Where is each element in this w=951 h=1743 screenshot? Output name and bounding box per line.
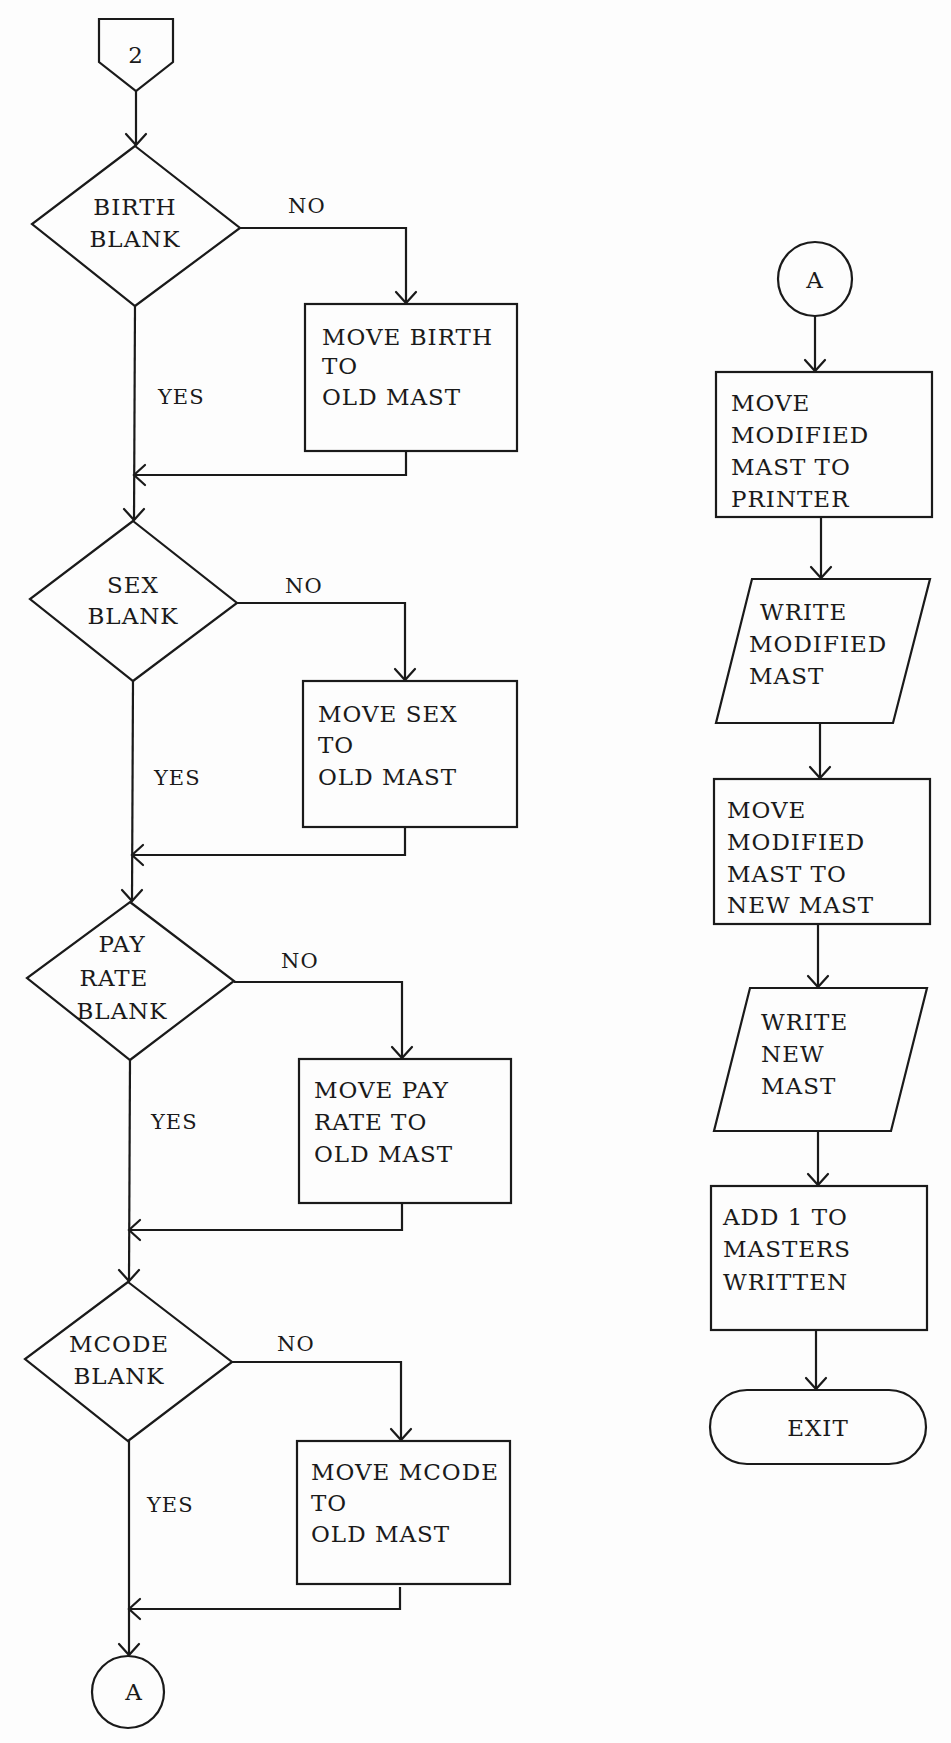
svg-text:BIRTH: BIRTH [93, 194, 176, 220]
branch-label-yes: YES [157, 385, 205, 409]
svg-text:TO: TO [322, 353, 358, 379]
process-add-1-to-masters-written: ADD 1 TO MASTERS WRITTEN [711, 1186, 927, 1330]
process-move-payrate: MOVE PAY RATE TO OLD MAST [299, 1059, 511, 1203]
svg-text:BLANK: BLANK [73, 1363, 164, 1389]
onpage-connector-a-out: A [92, 1656, 164, 1728]
svg-text:BLANK: BLANK [87, 603, 178, 629]
svg-text:MAST TO: MAST TO [731, 454, 851, 480]
flowchart-canvas: 2 BIRTH BLANK NO MOVE BIRTH TO OLD MAST … [0, 0, 951, 1743]
svg-text:ADD 1 TO: ADD 1 TO [722, 1204, 848, 1230]
svg-text:RATE: RATE [80, 965, 149, 991]
onpage-connector-a-in: A [778, 242, 852, 316]
svg-text:MAST: MAST [761, 1073, 836, 1099]
process-move-mcode: MOVE MCODE TO OLD MAST [297, 1441, 510, 1584]
svg-text:WRITE: WRITE [760, 599, 847, 625]
svg-text:MASTERS: MASTERS [723, 1236, 851, 1262]
svg-text:RATE TO: RATE TO [314, 1109, 427, 1135]
svg-text:MCODE: MCODE [69, 1331, 169, 1357]
svg-text:MAST TO: MAST TO [727, 861, 847, 887]
branch-label-yes: YES [146, 1493, 194, 1517]
decision-mcode-blank: MCODE BLANK [25, 1282, 232, 1441]
svg-text:OLD MAST: OLD MAST [318, 764, 457, 790]
process-move-sex: MOVE SEX TO OLD MAST [303, 681, 517, 827]
svg-text:MOVE MCODE: MOVE MCODE [311, 1459, 499, 1485]
svg-text:TO: TO [311, 1490, 347, 1516]
io-write-new-mast: WRITE NEW MAST [714, 988, 927, 1131]
svg-text:WRITE: WRITE [761, 1009, 848, 1035]
svg-text:A: A [124, 1679, 143, 1705]
svg-text:NEW: NEW [761, 1041, 825, 1067]
branch-label-no: NO [288, 194, 326, 218]
svg-text:MOVE BIRTH: MOVE BIRTH [322, 324, 493, 350]
terminal-exit: EXIT [710, 1390, 926, 1464]
process-move-birth: MOVE BIRTH TO OLD MAST [305, 304, 517, 451]
svg-text:PAY: PAY [98, 931, 145, 957]
svg-text:BLANK: BLANK [89, 226, 180, 252]
svg-text:OLD MAST: OLD MAST [311, 1521, 450, 1547]
svg-text:MOVE PAY: MOVE PAY [314, 1077, 449, 1103]
svg-text:WRITTEN: WRITTEN [723, 1269, 848, 1295]
svg-text:EXIT: EXIT [787, 1415, 849, 1441]
svg-text:A: A [805, 267, 824, 293]
svg-text:MODIFIED: MODIFIED [731, 422, 869, 448]
branch-label-no: NO [281, 949, 319, 973]
svg-text:SEX: SEX [107, 572, 159, 598]
svg-text:OLD MAST: OLD MAST [314, 1141, 453, 1167]
connector-label: 2 [128, 42, 144, 68]
svg-text:MOVE: MOVE [731, 390, 810, 416]
svg-text:BLANK: BLANK [76, 998, 167, 1024]
svg-text:OLD MAST: OLD MAST [322, 384, 461, 410]
process-move-modified-to-printer: MOVE MODIFIED MAST TO PRINTER [716, 372, 932, 517]
svg-text:MAST: MAST [749, 663, 824, 689]
branch-label-no: NO [277, 1332, 315, 1356]
svg-text:MODIFIED: MODIFIED [727, 829, 865, 855]
offpage-connector-2: 2 [99, 19, 173, 91]
svg-text:MOVE SEX: MOVE SEX [318, 701, 458, 727]
decision-birth-blank: BIRTH BLANK [32, 146, 240, 306]
process-move-modified-to-new: MOVE MODIFIED MAST TO NEW MAST [714, 779, 930, 924]
branch-label-yes: YES [150, 1110, 198, 1134]
decision-sex-blank: SEX BLANK [30, 521, 237, 681]
svg-text:MOVE: MOVE [727, 797, 806, 823]
branch-label-yes: YES [153, 766, 201, 790]
svg-text:TO: TO [318, 732, 354, 758]
svg-text:PRINTER: PRINTER [731, 486, 849, 512]
svg-text:MODIFIED: MODIFIED [749, 631, 887, 657]
decision-payrate-blank: PAY RATE BLANK [27, 902, 234, 1060]
branch-label-no: NO [285, 574, 323, 598]
io-write-modified-mast: WRITE MODIFIED MAST [716, 579, 930, 723]
svg-text:NEW MAST: NEW MAST [727, 892, 874, 918]
